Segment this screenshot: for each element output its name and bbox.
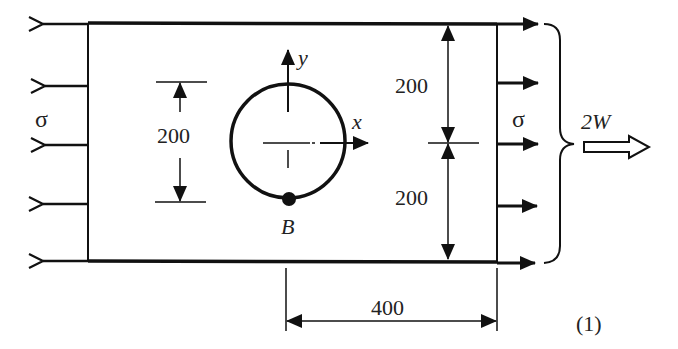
curly-brace-icon — [544, 24, 574, 263]
center-lines — [263, 143, 315, 168]
right-stress-label: σ — [512, 106, 525, 132]
plate-with-hole-diagram: σ σ 2W B y x 200 — [0, 0, 678, 349]
left-stress-label: σ — [35, 106, 48, 132]
bottom-half-height-label: 200 — [395, 185, 428, 210]
left-stress-arrows — [43, 24, 88, 261]
point-b-label: B — [281, 214, 294, 239]
top-half-height-label: 200 — [395, 73, 428, 98]
point-b-marker — [282, 192, 296, 206]
y-axis-label: y — [296, 45, 308, 70]
right-stress-arrows — [497, 24, 538, 263]
hole-diameter-label: 200 — [157, 123, 190, 148]
width-label: 400 — [371, 295, 404, 320]
figure-number: (1) — [576, 311, 602, 336]
x-axis-label: x — [351, 109, 362, 134]
resultant-label: 2W — [581, 109, 612, 134]
resultant-arrow-icon — [584, 136, 649, 158]
half-height-dimensions — [428, 26, 479, 259]
